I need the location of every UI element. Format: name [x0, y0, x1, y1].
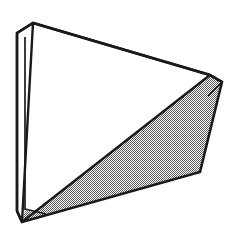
figure-container — [0, 0, 232, 239]
prism-faces — [17, 23, 222, 222]
triangular-prism-drawing — [0, 0, 232, 239]
